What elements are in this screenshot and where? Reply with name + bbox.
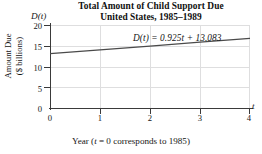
equation-annotation: D(t) = 0.925t + 13.083 — [133, 33, 222, 43]
x-tick-label: 0 — [43, 113, 57, 123]
chart-title-line-2: United States, 1985–1989 — [44, 12, 258, 23]
chart-figure: Total Amount of Child Support Due United… — [0, 0, 262, 154]
equation-body: = 0.925t + 13.083 — [149, 33, 222, 43]
chart-title-line-1: Total Amount of Child Support Due — [78, 1, 223, 11]
x-tick-label: 1 — [93, 113, 107, 123]
caption-suffix: = 0 corresponds to 1985) — [97, 136, 190, 146]
y-axis-title: Amount Due ($ billions) — [3, 13, 27, 99]
y-tick-label: 5 — [26, 84, 42, 94]
equation-lhs: D(t) — [133, 33, 149, 43]
y-tick-label: 0 — [26, 104, 42, 114]
y-tick-label: 10 — [26, 63, 42, 73]
y-tick-label: 15 — [26, 42, 42, 52]
y-tick-label: 20 — [26, 21, 42, 31]
x-tick-label: 3 — [193, 113, 207, 123]
x-axis-caption: Year (t = 0 corresponds to 1985) — [0, 136, 262, 146]
x-axis-variable-label: t — [252, 101, 255, 111]
y-axis-title-line-1: Amount Due — [3, 13, 14, 99]
x-tick-label: 4 — [242, 113, 256, 123]
x-tick-label: 2 — [143, 113, 157, 123]
y-axis-title-line-2: ($ billions) — [14, 13, 25, 99]
chart-title: Total Amount of Child Support Due United… — [44, 1, 258, 23]
caption-prefix: Year ( — [72, 136, 94, 146]
y-axis-variable-label: D(t) — [31, 11, 46, 21]
